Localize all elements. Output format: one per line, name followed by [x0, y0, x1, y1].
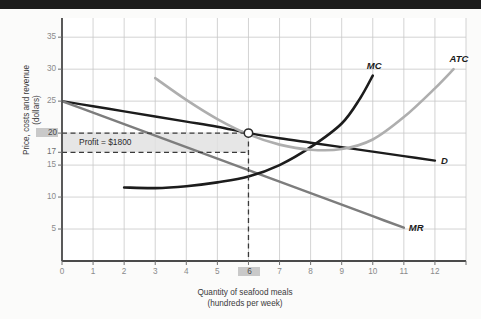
y-axis-title: Price, costs and revenue (dollars)	[22, 30, 42, 190]
equilibrium-point-marker	[244, 129, 252, 137]
bottom-white-margin	[0, 319, 488, 323]
equilibrium-circle	[244, 129, 252, 137]
x-axis-title: Quantity of seafood meals (hundreds per …	[150, 288, 340, 309]
right-white-margin	[481, 0, 488, 323]
y-axis-title-line2: (dollars)	[32, 30, 42, 190]
y-tick-label-5: 5	[36, 224, 56, 233]
curve-label-atc: ATC	[450, 53, 469, 64]
x-tick-label-7: 7	[270, 267, 290, 276]
economics-chart-figure: 0123456789101112 510151720253035 MC ATC …	[0, 0, 488, 323]
x-tick-label-6: 6	[238, 267, 260, 276]
x-tick-label-3: 3	[145, 267, 165, 276]
curve-label-d: D	[441, 155, 448, 166]
x-tick-label-1: 1	[83, 267, 103, 276]
x-tick-label-11: 11	[394, 267, 414, 276]
x-tick-label-9: 9	[332, 267, 352, 276]
y-axis-title-line1: Price, costs and revenue	[22, 30, 32, 190]
x-tick-label-8: 8	[301, 267, 321, 276]
x-tick-label-5: 5	[207, 267, 227, 276]
x-tick-label-2: 2	[114, 267, 134, 276]
x-tick-label-12: 12	[425, 267, 445, 276]
x-axis-title-line1: Quantity of seafood meals	[150, 288, 340, 299]
x-tick-label-0: 0	[52, 267, 72, 276]
profit-annotation-text: Profit = $1800	[79, 137, 131, 147]
x-tick-label-10: 10	[363, 267, 383, 276]
curve-label-mc: MC	[367, 60, 382, 71]
curve-label-mr: MR	[409, 222, 424, 233]
x-axis-title-line2: (hundreds per week)	[150, 299, 340, 310]
x-tick-label-4: 4	[176, 267, 196, 276]
y-tick-label-10: 10	[36, 192, 56, 201]
